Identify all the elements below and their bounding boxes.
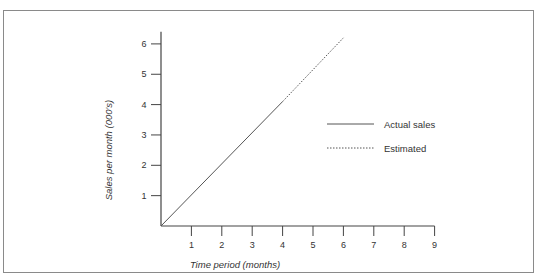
x-tick-label: 9 [432, 240, 437, 250]
actual-sales-line [161, 102, 283, 226]
series-group [161, 38, 343, 226]
x-tick-label: 4 [280, 240, 285, 250]
legend-label: Actual sales [384, 119, 435, 130]
legend: Actual salesEstimated [327, 119, 435, 154]
y-tick-label: 2 [141, 160, 146, 170]
y-tick-label: 1 [141, 191, 146, 201]
x-tick-label: 8 [402, 240, 407, 250]
axes: 123456123456789 [141, 32, 437, 250]
x-tick-label: 6 [341, 240, 346, 250]
x-tick-label: 1 [189, 240, 194, 250]
x-tick-label: 3 [250, 240, 255, 250]
y-tick-label: 3 [141, 130, 146, 140]
legend-label: Estimated [384, 143, 426, 154]
y-axis-title: Sales per month (000's) [103, 100, 114, 201]
x-tick-label: 2 [219, 240, 224, 250]
estimated-line [283, 38, 344, 102]
y-tick-label: 4 [141, 100, 146, 110]
x-axis-title: Time period (months) [190, 259, 280, 270]
line-chart: 123456123456789 Actual salesEstimated Ti… [0, 0, 539, 278]
y-tick-label: 5 [141, 69, 146, 79]
x-tick-label: 7 [371, 240, 376, 250]
y-tick-label: 6 [141, 39, 146, 49]
x-tick-label: 5 [310, 240, 315, 250]
